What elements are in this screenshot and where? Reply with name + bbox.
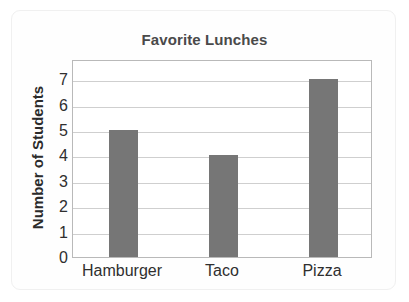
y-axis-tick-label: 5 (48, 123, 68, 139)
y-axis-tick-label: 3 (48, 174, 68, 190)
y-axis-tick-labels: 01234567 (46, 60, 68, 258)
y-axis-tick-label: 4 (48, 148, 68, 164)
chart-title: Favorite Lunches (0, 31, 409, 48)
y-axis-tick-label: 6 (48, 98, 68, 114)
x-axis-tick-label: Taco (172, 261, 272, 280)
y-axis-tick-label: 2 (48, 199, 68, 215)
y-axis-tick-label: 0 (48, 250, 68, 266)
x-axis-tick-label: Pizza (272, 261, 372, 280)
y-axis-tick-label: 1 (48, 225, 68, 241)
bar (309, 79, 338, 257)
y-axis-tick-label: 7 (48, 72, 68, 88)
bar-chart-figure: Favorite Lunches Number of Students 0123… (0, 0, 409, 302)
bar (109, 130, 138, 257)
y-axis-title: Number of Students (29, 58, 46, 258)
plot-area (72, 60, 372, 258)
bar (209, 155, 238, 257)
x-axis-tick-labels: HamburgerTacoPizza (72, 261, 372, 289)
x-axis-tick-label: Hamburger (72, 261, 172, 280)
